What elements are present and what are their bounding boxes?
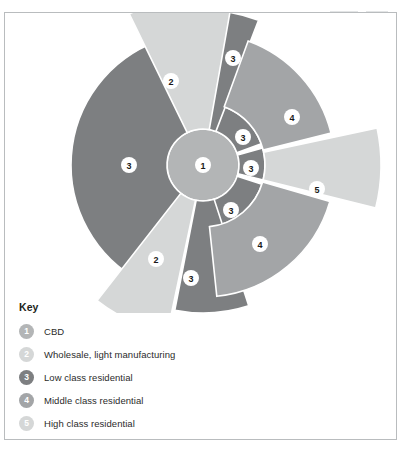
legend-swatch-1: 1: [19, 324, 34, 339]
legend-label-middle-class: Middle class residential: [44, 395, 143, 406]
sector-marker-3-4: 3: [225, 50, 241, 66]
marker-badge-label: 3: [230, 54, 235, 64]
marker-badge-label: 3: [126, 161, 131, 171]
sector-marker-4-10: 4: [252, 236, 268, 252]
marker-badge-label: 3: [248, 164, 253, 174]
marker-badge-label: 4: [289, 113, 294, 123]
legend-item-wholesale: 2 Wholesale, light manufacturing: [19, 343, 379, 365]
legend-swatch-2: 2: [19, 347, 34, 362]
marker-badge-label: 2: [153, 255, 158, 265]
legend-item-high-class: 5 High class residential: [19, 412, 379, 434]
sector-marker-3-8: 3: [223, 202, 239, 218]
legend-label-low-class: Low class residential: [44, 372, 133, 383]
sector-marker-2-2: 2: [148, 251, 164, 267]
sector-marker-3-7: 3: [243, 160, 259, 176]
marker-badge-label: 4: [257, 240, 262, 250]
legend-item-cbd: 1 CBD: [19, 320, 379, 342]
legend: Key 1 CBD 2 Wholesale, light manufacturi…: [19, 301, 379, 435]
sector-model-diagram: 122333333445: [5, 13, 398, 313]
marker-badge-label: 3: [228, 206, 233, 216]
figure-frame: 122333333445 Key 1 CBD 2 Wholesale, ligh…: [4, 12, 397, 440]
sector-marker-3-5: 3: [183, 270, 199, 286]
marker-badge-label: 3: [240, 133, 245, 143]
sector-marker-3-3: 3: [121, 157, 137, 173]
legend-swatch-3: 3: [19, 370, 34, 385]
sector-marker-2-1: 2: [163, 73, 179, 89]
sector-marker-3-6: 3: [235, 129, 251, 145]
legend-swatch-4: 4: [19, 393, 34, 408]
legend-label-wholesale: Wholesale, light manufacturing: [44, 349, 175, 360]
legend-item-middle-class: 4 Middle class residential: [19, 389, 379, 411]
legend-label-high-class: High class residential: [44, 418, 135, 429]
legend-item-low-class: 3 Low class residential: [19, 366, 379, 388]
marker-badge-label: 1: [200, 161, 205, 171]
legend-swatch-5: 5: [19, 416, 34, 431]
sector-marker-4-9: 4: [284, 109, 300, 125]
marker-badge-label: 3: [188, 274, 193, 284]
legend-label-cbd: CBD: [44, 326, 64, 337]
sector-marker-1-0: 1: [195, 157, 211, 173]
sector-model-svg: 122333333445: [5, 13, 398, 313]
marker-badge-label: 5: [314, 185, 319, 195]
sector-marker-5-11: 5: [309, 181, 325, 197]
marker-badge-label: 2: [168, 77, 173, 87]
legend-title: Key: [19, 301, 379, 313]
